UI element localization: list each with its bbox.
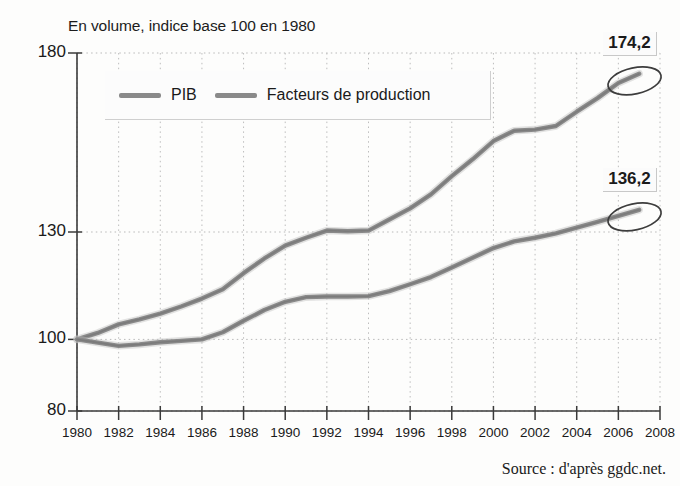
value-callout: 136,2 (603, 168, 657, 192)
x-tick-label: 2000 (471, 425, 515, 440)
x-tick-label: 1994 (347, 425, 391, 440)
legend-label: PIB (171, 86, 197, 104)
source-note: Source : d'après ggdc.net. (502, 460, 666, 478)
x-tick-label: 1990 (263, 425, 307, 440)
legend-item-facteurs-de-production[interactable]: Facteurs de production (215, 86, 431, 104)
legend-entries: PIBFacteurs de production (105, 71, 490, 119)
y-tick-label: 180 (20, 42, 66, 62)
x-tick-label: 2008 (638, 425, 680, 440)
y-tick-label: 100 (20, 328, 66, 348)
x-tick-label: 1996 (388, 425, 432, 440)
y-tick-label: 130 (20, 221, 66, 241)
legend-line-swatch (119, 93, 161, 98)
x-tick-label: 1984 (138, 425, 182, 440)
x-tick-label: 1988 (222, 425, 266, 440)
x-tick-label: 2004 (555, 425, 599, 440)
x-tick-label: 1992 (305, 425, 349, 440)
chart-legend: PIBFacteurs de production (105, 71, 491, 120)
x-tick-label: 1982 (97, 425, 141, 440)
x-tick-label: 2006 (596, 425, 640, 440)
y-tick-label: 80 (20, 400, 66, 420)
legend-label: Facteurs de production (267, 86, 431, 104)
legend-line-swatch (215, 93, 257, 98)
x-tick-label: 2002 (513, 425, 557, 440)
legend-item-pib[interactable]: PIB (119, 86, 197, 104)
x-tick-label: 1986 (180, 425, 224, 440)
x-tick-label: 1998 (430, 425, 474, 440)
value-callout: 174,2 (603, 32, 657, 56)
chart-figure: En volume, indice base 100 en 1980 18013… (0, 0, 680, 486)
x-tick-label: 1980 (55, 425, 99, 440)
